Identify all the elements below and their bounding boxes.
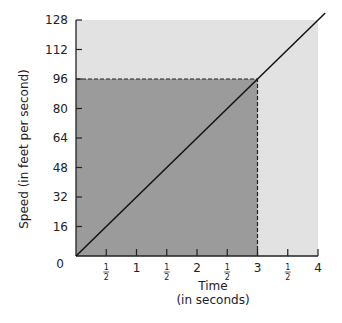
x-tick-label: 2 xyxy=(193,261,201,275)
x-tick-label-numerator: 1 xyxy=(225,263,230,272)
y-tick-label: 16 xyxy=(53,220,68,234)
x-axis-title: Time xyxy=(197,279,227,293)
y-axis-title: Speed (in feet per second) xyxy=(17,69,31,229)
x-tick-label: 3 xyxy=(254,261,262,275)
y-tick-label: 80 xyxy=(53,102,68,116)
y-tick-label: 32 xyxy=(53,190,68,204)
y-tick-label: 64 xyxy=(53,131,68,145)
y-tick-label: 128 xyxy=(45,13,68,27)
x-tick-label: 1 xyxy=(133,261,141,275)
x-tick-label: 4 xyxy=(314,261,322,275)
x-tick-label-denominator: 2 xyxy=(104,273,109,282)
y-tick-label: 0 xyxy=(56,257,64,271)
y-tick-label: 96 xyxy=(53,72,68,86)
y-tick-label: 48 xyxy=(53,161,68,175)
x-tick-label-numerator: 1 xyxy=(104,263,109,272)
x-tick-label-numerator: 1 xyxy=(285,263,290,272)
speed-time-chart: 0163248648096112128121122123124Time(in s… xyxy=(0,0,342,323)
x-axis-subtitle: (in seconds) xyxy=(176,293,249,307)
x-tick-label-denominator: 2 xyxy=(164,273,169,282)
x-tick-label-denominator: 2 xyxy=(285,273,290,282)
y-tick-label: 112 xyxy=(45,43,68,57)
x-tick-label-numerator: 1 xyxy=(164,263,169,272)
